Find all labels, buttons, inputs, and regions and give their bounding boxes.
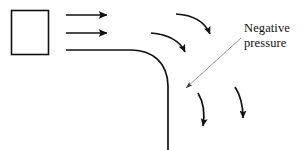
curved-wall [66, 50, 168, 150]
downward-flow-arrow-left [198, 93, 204, 126]
curved-flow-arrow-upper [176, 14, 210, 34]
negative-pressure-label: Negative pressure [244, 21, 290, 51]
negative-pressure-label-line1: Negative [244, 21, 290, 36]
curved-flow-arrow-lower [151, 33, 185, 52]
negative-pressure-label-line2: pressure [244, 36, 290, 51]
square-block [12, 11, 49, 55]
negative-pressure-leader-line [186, 38, 241, 88]
downward-flow-arrow-right [235, 87, 243, 118]
flow-diagram: Negative pressure [0, 0, 303, 150]
